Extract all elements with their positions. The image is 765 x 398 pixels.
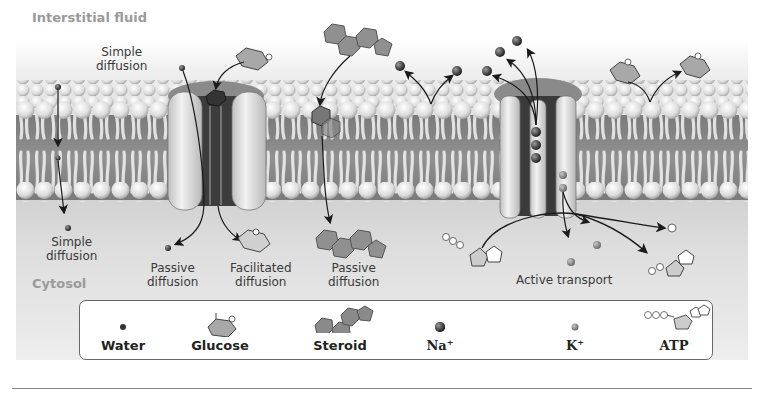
atp-molecule-icon bbox=[636, 303, 712, 333]
sodium-ion-icon bbox=[410, 307, 470, 337]
steroid-molecule-icon bbox=[295, 303, 385, 333]
legend-item-water: Water bbox=[88, 301, 158, 359]
cytosol-label: Cytosol bbox=[32, 276, 86, 291]
channel-protein bbox=[168, 81, 266, 210]
glucose-molecule-icon bbox=[180, 307, 260, 337]
legend: Water Glucose Steroid Na+ K+ bbox=[79, 300, 713, 360]
simple-diffusion-top-label: Simple diffusion bbox=[96, 45, 147, 73]
bottom-divider bbox=[12, 388, 752, 389]
passive-diffusion-channel-label: Passive diffusion bbox=[147, 261, 198, 289]
legend-item-potassium: K+ bbox=[550, 301, 600, 359]
atp-hydrolysis bbox=[443, 192, 695, 276]
facilitated-diffusion-label: Facilitated diffusion bbox=[230, 261, 292, 289]
sodium-label: Na bbox=[426, 338, 446, 353]
legend-item-sodium: Na+ bbox=[410, 301, 470, 359]
passive-diffusion-steroid-label: Passive diffusion bbox=[328, 261, 379, 289]
potassium-ion-icon bbox=[550, 307, 600, 337]
interstitial-fluid-label: Interstitial fluid bbox=[32, 10, 147, 25]
steroid-passive-diffusion bbox=[324, 24, 392, 56]
simple-diffusion-bottom-label: Simple diffusion bbox=[46, 235, 97, 263]
legend-item-glucose: Glucose bbox=[180, 301, 260, 359]
legend-item-steroid: Steroid bbox=[295, 301, 385, 359]
water-molecule-icon bbox=[88, 307, 158, 337]
active-transport-label: Active transport bbox=[516, 273, 612, 287]
legend-item-atp: ATP bbox=[636, 301, 712, 359]
steroid-cytosol bbox=[316, 230, 386, 258]
potassium-label: K bbox=[566, 338, 577, 353]
